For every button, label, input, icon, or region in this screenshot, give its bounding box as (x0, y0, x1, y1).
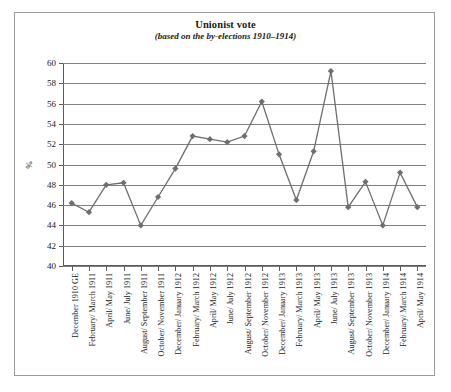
y-axis-tick-label: 58 (47, 78, 56, 88)
y-axis-tick-label: 40 (47, 261, 56, 271)
y-axis-tick-label: 46 (47, 200, 56, 210)
x-axis-tick (106, 266, 107, 271)
data-point (138, 222, 144, 228)
x-axis-tick (141, 266, 142, 271)
y-axis-tick-label: 52 (47, 139, 56, 149)
x-axis-tick (262, 266, 263, 271)
x-axis-tick (89, 266, 90, 271)
x-axis-tick (366, 266, 367, 271)
x-axis-tick-label-text: December/ January 1912 (174, 273, 183, 355)
data-point (172, 165, 178, 171)
x-axis-tick-label-text: August/ September 1913 (347, 273, 356, 354)
plot-area: % 4042444648505254565860 December 1910 G… (63, 63, 426, 266)
x-axis-tick-label-text: February/ March 1911 (87, 273, 96, 346)
data-point (276, 151, 282, 157)
data-point (380, 222, 386, 228)
x-axis-tick-label-text: June/ July 1912 (226, 273, 235, 324)
x-axis-tick (417, 266, 418, 271)
x-axis-tick-label-text: October/ November 1913 (364, 273, 373, 357)
data-point (311, 148, 317, 154)
data-point (224, 139, 230, 145)
x-axis-tick-label-text: February/ March 1913 (295, 273, 304, 347)
data-point (328, 68, 334, 74)
x-axis-tick-label-text: April/ May 1912 (208, 273, 217, 328)
x-axis-tick (314, 266, 315, 271)
data-point (120, 180, 126, 186)
chart-frame: Unionist vote (based on the by-elections… (14, 12, 435, 376)
x-axis-tick-label-text: August/ September 1911 (139, 273, 148, 354)
x-axis-tick (279, 266, 280, 271)
x-axis-tick (210, 266, 211, 271)
data-point (241, 133, 247, 139)
x-axis-tick (400, 266, 401, 271)
x-axis-tick-label-text: April/ May 1914 (416, 273, 425, 328)
x-axis-tick (72, 266, 73, 271)
y-axis-tick-label: 42 (47, 241, 56, 251)
x-axis-tick (383, 266, 384, 271)
x-axis-tick-label-text: October/ November 1911 (157, 273, 166, 356)
x-axis-tick-label-text: June/ July 1911 (122, 273, 131, 324)
x-axis-tick (124, 266, 125, 271)
data-point (103, 182, 109, 188)
y-axis-tick-label: 56 (47, 99, 56, 109)
data-point (155, 194, 161, 200)
y-axis-tick-label: 54 (47, 119, 56, 129)
y-axis-tick-label: 60 (47, 58, 56, 68)
data-point (69, 200, 75, 206)
x-axis-tick-label-text: April/ May 1913 (312, 273, 321, 328)
x-axis-tick-label-text: August/ September 1912 (243, 273, 252, 354)
data-point (293, 197, 299, 203)
data-point (207, 136, 213, 142)
chart-title: Unionist vote (15, 19, 436, 31)
data-point (397, 170, 403, 176)
y-axis-title: % (24, 161, 34, 169)
y-axis-tick (59, 266, 63, 267)
y-axis-tick-label: 50 (47, 160, 56, 170)
chart-title-block: Unionist vote (based on the by-elections… (15, 19, 436, 41)
data-point (414, 204, 420, 210)
y-axis-tick-label: 48 (47, 180, 56, 190)
x-axis-tick-label-text: June/ July 1913 (329, 273, 338, 324)
series-line (72, 71, 418, 225)
x-axis-tick (193, 266, 194, 271)
x-axis-tick (175, 266, 176, 271)
y-axis-tick-label: 44 (47, 220, 56, 230)
x-axis-tick-label-text: October/ November 1912 (260, 273, 269, 357)
x-axis-tick (227, 266, 228, 271)
x-axis-tick (296, 266, 297, 271)
data-point (86, 209, 92, 215)
x-axis-tick-label-text: December 1910 GE (70, 273, 79, 338)
data-series (63, 63, 426, 266)
x-axis-tick-label-text: April/ May 1911 (105, 273, 114, 328)
x-axis-tick (348, 266, 349, 271)
x-axis-tick-label-text: February/ March 1914 (399, 273, 408, 347)
x-axis-tick (331, 266, 332, 271)
x-axis-tick-label-text: December/ January 1913 (278, 273, 287, 355)
x-axis-tick-label-text: February/ March 1912 (191, 273, 200, 347)
chart-subtitle: (based on the by-elections 1910–1914) (15, 31, 436, 41)
x-axis-tick (245, 266, 246, 271)
x-axis-tick (158, 266, 159, 271)
data-point (259, 98, 265, 104)
x-axis-tick-label-text: December/ January 1914 (381, 273, 390, 355)
data-point (190, 133, 196, 139)
